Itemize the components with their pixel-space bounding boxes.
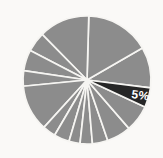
pie-slice-label: 5% [131,87,151,103]
pie-chart-svg: 5% [0,0,163,158]
screenshot-root: 5% [0,0,163,158]
pie-chart: 5% [0,0,163,158]
